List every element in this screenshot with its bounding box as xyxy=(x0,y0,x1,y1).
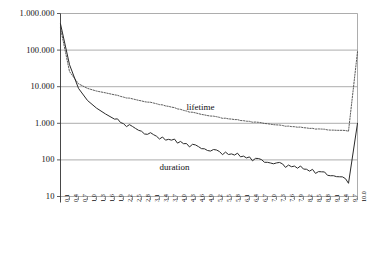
x-axis-tick-label: 6.7 xyxy=(261,194,268,202)
x-axis-tick-label: 0.7 xyxy=(81,194,88,202)
series-annotation-lifetime: lifetime xyxy=(187,102,215,112)
x-axis-tick-label: 4.0 xyxy=(180,194,187,202)
x-axis-tick-label: 8.8 xyxy=(324,194,331,202)
y-axis-tick-label: 100.000 xyxy=(26,45,54,55)
series-line-lifetime xyxy=(61,28,358,131)
x-axis-tick-label: 10.0 xyxy=(360,191,367,202)
x-axis-tick-label: 4.3 xyxy=(189,194,196,202)
x-axis-tick-label: 3.1 xyxy=(153,194,160,202)
y-axis-tick-label: 10.000 xyxy=(31,81,55,91)
x-axis-tick-label: 1.3 xyxy=(99,194,106,202)
y-axis-tick-label: 10 xyxy=(46,191,55,201)
chart-container: 1.000.000100.00010.0001.000100100.10.40.… xyxy=(0,0,369,257)
x-axis-tick-label: 2.8 xyxy=(144,194,151,202)
x-axis-tick-label: 5.2 xyxy=(216,194,223,202)
x-axis-tick-label: 7.0 xyxy=(270,194,277,202)
x-axis-tick-label: 4.9 xyxy=(207,194,214,202)
x-axis-tick-label: 7.6 xyxy=(288,194,295,202)
x-axis-tick-label: 1.6 xyxy=(108,194,115,202)
x-axis-tick-label: 2.5 xyxy=(135,194,142,202)
x-axis-tick-label: 5.8 xyxy=(234,194,241,202)
y-axis-tick-label: 1.000.000 xyxy=(20,8,55,18)
series-annotation-duration: duration xyxy=(160,162,190,172)
chart-plot-area xyxy=(0,0,369,257)
x-axis-tick-label: 3.4 xyxy=(162,194,169,202)
x-axis-tick-label: 0.1 xyxy=(63,194,70,202)
x-axis-tick-label: 6.1 xyxy=(243,194,250,202)
x-axis-tick-label: 1.0 xyxy=(90,194,97,202)
y-axis-tick-label: 1.000 xyxy=(35,118,55,128)
x-axis-tick-label: 3.7 xyxy=(171,194,178,202)
x-axis-tick-label: 8.5 xyxy=(315,194,322,202)
x-axis-tick-label: 7.9 xyxy=(297,194,304,202)
x-axis-tick-label: 6.4 xyxy=(252,194,259,202)
x-axis-tick-label: 0.4 xyxy=(72,194,79,202)
x-axis-tick-label: 7.3 xyxy=(279,194,286,202)
y-axis-tick-label: 100 xyxy=(41,154,54,164)
x-axis-tick-label: 9.7 xyxy=(351,194,358,202)
y-axis-ticks xyxy=(57,14,61,197)
x-axis-tick-label: 4.6 xyxy=(198,194,205,202)
x-axis-tick-label: 9.4 xyxy=(342,194,349,202)
x-axis-tick-label: 9.1 xyxy=(333,194,340,202)
x-axis-tick-label: 2.2 xyxy=(126,194,133,202)
x-axis-tick-label: 5.5 xyxy=(225,194,232,202)
x-axis-tick-label: 8.2 xyxy=(306,194,313,202)
x-axis-tick-label: 1.9 xyxy=(117,194,124,202)
